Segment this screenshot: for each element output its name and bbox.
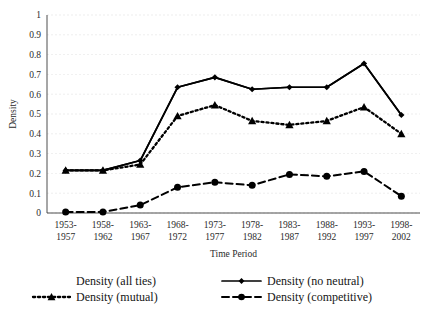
chart-legend: Density (all ties)Density (mutual)Densit… (33, 274, 372, 304)
marker-circle (174, 184, 181, 191)
series-density-mutual (66, 105, 402, 170)
marker-diamond (239, 278, 245, 284)
x-tick-label: 1993- (353, 220, 375, 230)
legend-label: Density (all ties) (76, 274, 156, 288)
x-tick-label-second-line: 1977 (205, 232, 224, 242)
marker-diamond (286, 84, 292, 90)
x-tick-label: 1968- (166, 220, 188, 230)
legend-label: Density (competitive) (267, 290, 372, 304)
series-markers (62, 168, 405, 216)
x-tick-label: 1953- (55, 220, 77, 230)
y-tick-label: 0.8 (29, 50, 41, 60)
series-markers (63, 60, 405, 173)
chart-figure: 00.10.20.30.40.50.60.70.80.911953-195719… (0, 0, 435, 321)
x-tick-label-second-line: 1987 (280, 232, 299, 242)
y-tick-label: 0.3 (29, 149, 41, 159)
marker-circle (361, 168, 368, 175)
y-tick-label: 0.2 (29, 169, 41, 179)
marker-triangle (360, 103, 368, 110)
x-tick-label-second-line: 1957 (56, 232, 75, 242)
legend-item-density-mutual[interactable]: Density (mutual) (33, 290, 158, 304)
marker-diamond (174, 84, 180, 90)
series-density-no-neutral (66, 64, 402, 171)
legend-label: Density (no neutral) (267, 274, 364, 288)
series-line (66, 64, 402, 171)
series-line (66, 171, 402, 212)
marker-circle (238, 294, 245, 301)
x-tick-label-second-line: 1982 (243, 232, 262, 242)
marker-triangle (211, 101, 219, 108)
x-tick-label-second-line: 1967 (131, 232, 150, 242)
y-tick-label: 0.9 (29, 30, 41, 40)
y-tick-label: 1 (36, 10, 41, 20)
y-tick-label: 0.5 (29, 109, 41, 119)
marker-circle (62, 209, 69, 216)
x-axis-tick-labels: 1953-19571958-19621963-19671968-19721973… (55, 220, 413, 242)
x-tick-label: 1998- (390, 220, 412, 230)
x-tick-label: 1983- (278, 220, 300, 230)
x-tick-label: 1958- (92, 220, 114, 230)
x-tick-label-second-line: 1972 (168, 232, 187, 242)
x-tick-label: 1978- (241, 220, 263, 230)
marker-circle (398, 193, 405, 200)
x-tick-label-second-line: 1997 (355, 232, 374, 242)
x-tick-label: 1988- (316, 220, 338, 230)
marker-circle (286, 171, 293, 178)
marker-circle (323, 173, 330, 180)
x-tick-label: 1973- (204, 220, 226, 230)
y-tick-label: 0.1 (29, 189, 41, 199)
x-axis-title: Time Period (210, 249, 257, 259)
y-tick-label: 0.4 (29, 129, 41, 139)
series-density-all-ties (66, 64, 402, 171)
legend-item-density-all-ties[interactable]: Density (all ties) (76, 274, 156, 288)
x-tick-label: 1963- (129, 220, 151, 230)
marker-circle (99, 209, 106, 216)
x-tick-label-second-line: 1992 (317, 232, 336, 242)
series-line (66, 105, 402, 170)
series-density-competitive (66, 171, 402, 212)
marker-diamond (249, 86, 255, 92)
y-tick-label: 0.7 (29, 70, 41, 80)
marker-circle (137, 202, 144, 209)
legend-item-density-competitive[interactable]: Density (competitive) (222, 290, 372, 304)
density-line-chart: 00.10.20.30.40.50.60.70.80.911953-195719… (0, 0, 435, 321)
x-tick-label-second-line: 2002 (392, 232, 411, 242)
y-axis-tick-labels: 00.10.20.30.40.50.60.70.80.91 (29, 10, 41, 218)
y-tick-label: 0 (36, 208, 41, 218)
x-tick-label-second-line: 1962 (93, 232, 112, 242)
legend-item-density-no-neutral[interactable]: Density (no neutral) (222, 274, 364, 288)
y-tick-label: 0.6 (29, 90, 41, 100)
series-line (66, 64, 402, 171)
y-axis-title: Density (8, 99, 18, 129)
legend-label: Density (mutual) (76, 290, 158, 304)
marker-diamond (212, 74, 218, 80)
marker-circle (211, 179, 218, 186)
marker-circle (249, 182, 256, 189)
